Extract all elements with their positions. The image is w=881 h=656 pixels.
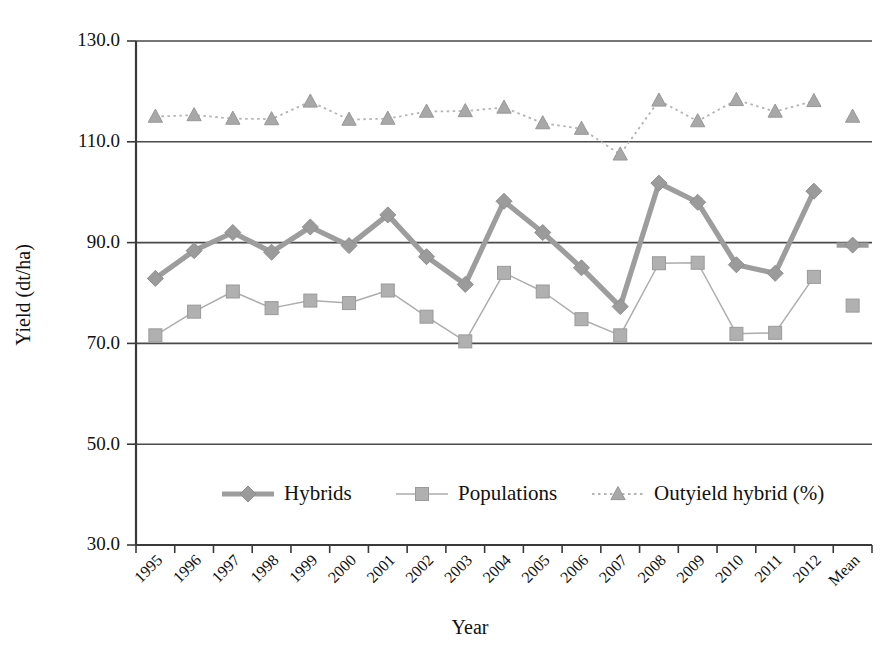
data-point-marker [536,285,549,298]
legend-label: Populations [458,481,557,505]
data-point-marker [730,327,743,340]
x-tick-label-1996: 1996 [170,551,205,586]
x-tick-labels-group: 1995199619971998199920002001200220032004… [131,551,863,589]
y-tick-label: 70.0 [87,332,120,353]
data-point-marker [381,284,394,297]
series-line-diamond [155,183,814,306]
x-tick-label-2000: 2000 [325,551,360,586]
legend-item-square[interactable]: Populations [396,481,557,505]
x-tick-label-2009: 2009 [673,551,708,586]
data-point-marker [652,93,666,106]
x-tick-label-1995: 1995 [131,551,166,586]
data-point-marker [536,116,550,129]
series-hybrids [147,175,868,314]
y-axis-title: Yield (dt/ha) [12,244,35,346]
data-point-marker [846,299,859,312]
data-point-marker [652,257,665,270]
x-axis-title: Year [452,616,489,638]
data-point-marker [420,310,433,323]
series-line-square [155,263,814,342]
x-tick-label-2012: 2012 [789,551,824,586]
x-tick-label-2003: 2003 [441,551,476,586]
y-tick-label: 130.0 [77,29,120,50]
data-point-marker [691,256,704,269]
x-tick-label-2010: 2010 [712,551,747,586]
data-point-marker [419,104,433,117]
data-point-marker [148,109,162,122]
data-point-marker [458,104,472,117]
data-point-marker [497,100,511,113]
x-tick-label-2002: 2002 [402,551,437,586]
data-point-marker [769,326,782,339]
data-point-marker [149,329,162,342]
legend-item-triangle[interactable]: Outyield hybrid (%) [592,481,824,505]
series-line-triangle [155,100,814,154]
legend-label: Outyield hybrid (%) [654,481,824,505]
y-tick-label: 30.0 [87,533,120,554]
data-point-marker [342,112,356,125]
x-tick-label-2004: 2004 [479,551,514,586]
x-tick-label-2005: 2005 [518,551,553,586]
x-tick-label-2006: 2006 [557,551,592,586]
y-tick-label: 90.0 [87,231,120,252]
data-point-marker [614,329,627,342]
legend-marker-triangle-icon [611,487,625,500]
legend-marker-diamond-icon [240,486,256,502]
data-point-marker [226,285,239,298]
data-point-marker [846,109,860,122]
series-outyield-hybrid [148,92,860,160]
y-tickmarks-group [127,41,136,545]
data-point-marker [807,270,820,283]
x-tick-label-2001: 2001 [363,551,398,586]
y-tick-labels-group: 30.050.070.090.0110.0130.0 [77,29,120,554]
data-point-marker [498,266,511,279]
legend-label: Hybrids [284,481,352,505]
data-point-marker [845,237,861,253]
data-point-marker [303,94,317,107]
data-point-marker [806,183,822,199]
x-tick-label-1997: 1997 [208,551,243,586]
y-tick-label: 110.0 [78,130,120,151]
data-point-marker [343,297,356,310]
data-point-marker [459,335,472,348]
data-point-marker [264,112,278,125]
data-point-marker [729,92,743,105]
x-tick-label-2011: 2011 [751,551,785,585]
chart-figure: 30.050.070.090.0110.0130.0 1995199619971… [0,0,881,656]
chart-svg: 30.050.070.090.0110.0130.0 1995199619971… [0,0,881,656]
x-tick-label-2007: 2007 [596,551,631,586]
chart-legend: HybridsPopulationsOutyield hybrid (%) [222,481,824,505]
data-point-marker [575,313,588,326]
x-tick-label-2008: 2008 [634,551,669,586]
x-tick-label-1998: 1998 [247,551,282,586]
data-point-marker [691,114,705,127]
legend-marker-square-icon [416,488,429,501]
x-tick-label-1999: 1999 [286,551,321,586]
x-tick-label-Mean: Mean [825,551,863,589]
data-point-marker [304,294,317,307]
legend-item-diamond[interactable]: Hybrids [222,481,352,505]
data-point-marker [265,302,278,315]
y-tick-label: 50.0 [87,433,120,454]
data-point-marker [807,93,821,106]
data-point-marker [767,265,783,281]
data-point-marker [187,108,201,121]
x-tickmarks-group [136,545,872,553]
data-point-marker [381,111,395,124]
data-point-marker [188,305,201,318]
